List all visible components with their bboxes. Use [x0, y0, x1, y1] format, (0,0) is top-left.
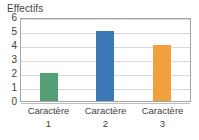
y-axis-tick-label: 0 — [11, 97, 17, 107]
x-axis-category-number: 1 — [20, 117, 77, 130]
x-axis-category-label: Caractère3 — [134, 104, 191, 130]
plot-area — [20, 18, 191, 102]
bars-layer — [21, 19, 190, 101]
bar[interactable] — [153, 45, 171, 101]
x-axis: Caractère1Caractère2Caractère3 — [20, 104, 191, 138]
y-axis-tick-label: 4 — [11, 41, 17, 51]
y-axis-tick-label: 1 — [11, 83, 17, 93]
x-axis-category-name: Caractère — [134, 104, 191, 117]
bar-slot — [134, 19, 190, 101]
x-axis-category-label: Caractère2 — [77, 104, 134, 130]
y-axis-tick-label: 6 — [11, 13, 17, 23]
x-axis-category-name: Caractère — [20, 104, 77, 117]
bar[interactable] — [40, 73, 58, 101]
y-axis: 0123456 — [0, 18, 20, 102]
y-axis-tick-label: 5 — [11, 27, 17, 37]
bar-slot — [77, 19, 133, 101]
y-axis-tick-label: 2 — [11, 69, 17, 79]
bar[interactable] — [96, 31, 114, 101]
x-axis-category-number: 2 — [77, 117, 134, 130]
x-axis-category-number: 3 — [134, 117, 191, 130]
bar-chart: Effectifs 0123456 Caractère1Caractère2Ca… — [0, 0, 199, 140]
x-axis-category-label: Caractère1 — [20, 104, 77, 130]
bar-slot — [21, 19, 77, 101]
y-axis-tick-label: 3 — [11, 55, 17, 65]
x-axis-category-name: Caractère — [77, 104, 134, 117]
